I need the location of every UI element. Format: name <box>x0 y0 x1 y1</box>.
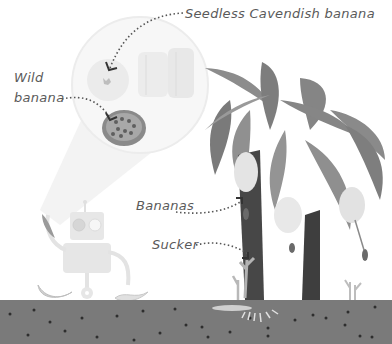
banana-tree-trunk-second <box>302 210 320 300</box>
label-wild-line2: banana <box>14 90 64 105</box>
banana-peel <box>115 292 148 301</box>
ground-banana <box>38 285 72 297</box>
soil-layer <box>0 300 392 344</box>
seedless-banana-slices <box>138 48 194 98</box>
illustration-canvas <box>0 0 392 344</box>
label-sucker: Sucker <box>152 237 198 252</box>
label-bananas: Bananas <box>136 198 194 213</box>
pointer-sucker <box>196 243 248 254</box>
banana-illustration: Seedless Cavendish banana Wild banana Ba… <box>0 0 392 344</box>
label-seedless-cavendish-banana: Seedless Cavendish banana <box>185 6 375 21</box>
soil-puddle <box>212 305 252 311</box>
label-wild-line1: Wild <box>14 70 44 85</box>
